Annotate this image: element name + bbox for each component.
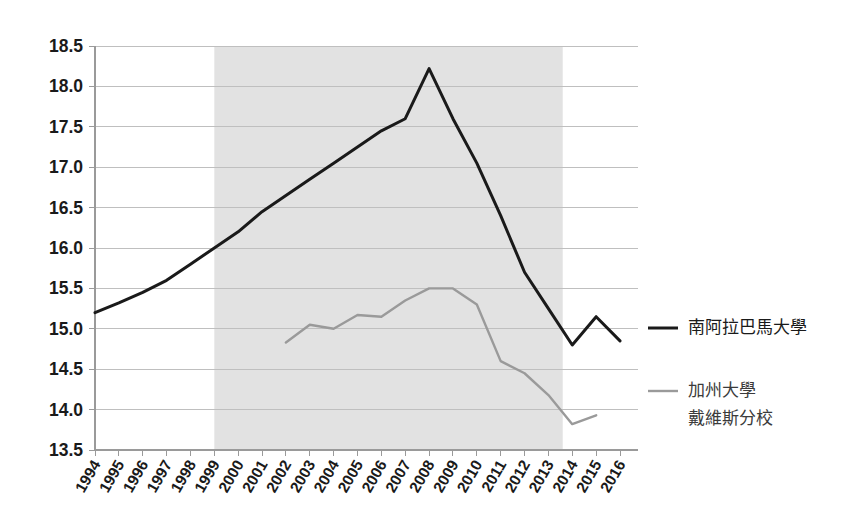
y-axis-tick-label: 13.5: [49, 440, 83, 460]
legend-label-1: 南阿拉巴馬大學: [688, 317, 807, 337]
x-axis-tick-label: 2016: [597, 457, 629, 496]
legend-label-2-line2: 戴維斯分校: [688, 408, 773, 428]
x-axis-labels: 1994199519961997199819992000200120022003…: [72, 457, 629, 496]
chart-canvas: 18.518.017.517.016.516.015.515.014.514.0…: [0, 0, 857, 525]
legend-label-2: 加州大學: [688, 380, 756, 400]
y-axis-tick-label: 15.5: [49, 278, 83, 298]
y-axis-labels: 18.518.017.517.016.516.015.515.014.514.0…: [49, 36, 83, 460]
legend: 南阿拉巴馬大學加州大學戴維斯分校: [648, 317, 807, 428]
y-axis-tick-label: 14.0: [49, 400, 83, 420]
x-axis-tick-label: 2010: [453, 457, 485, 495]
line-chart: 18.518.017.517.016.516.015.515.014.514.0…: [0, 0, 857, 525]
y-axis-tick-label: 15.0: [49, 319, 83, 339]
y-axis-tick-label: 16.0: [49, 238, 83, 258]
y-axis-tick-label: 18.5: [49, 36, 83, 56]
y-axis-tick-label: 16.5: [49, 198, 83, 218]
y-axis-tick-label: 17.0: [49, 157, 83, 177]
y-axis-tick-label: 17.5: [49, 117, 83, 137]
y-axis-tick-label: 18.0: [49, 76, 83, 96]
y-axis-tick-label: 14.5: [49, 359, 83, 379]
